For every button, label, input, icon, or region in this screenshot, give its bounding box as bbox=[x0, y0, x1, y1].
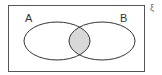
universal-set-symbol: ξ bbox=[150, 4, 154, 13]
set-b-label: B bbox=[120, 13, 127, 24]
set-a-label: A bbox=[25, 13, 32, 24]
